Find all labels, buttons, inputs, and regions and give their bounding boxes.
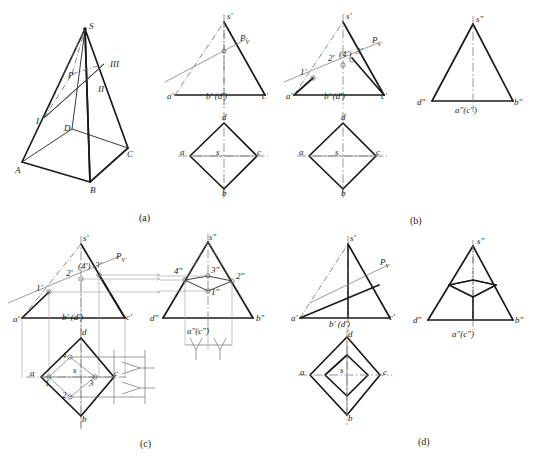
- label-c1-s-prime: s': [83, 234, 88, 243]
- label-b3-b-dprime: b": [514, 98, 522, 107]
- label-c1-1: 1: [45, 379, 50, 388]
- label-b3-d-dprime: d": [417, 98, 425, 107]
- label-b2-Pv: PV: [372, 36, 381, 47]
- label-d1-a: a: [300, 368, 305, 377]
- panel-d1-front-result: [298, 236, 392, 425]
- label-c1-4-prime: (4'): [78, 262, 90, 271]
- label-a-C: C: [127, 150, 133, 159]
- label-b2-d: d: [341, 113, 346, 122]
- label-b2-bd-prime: b' (d'): [324, 92, 345, 101]
- label-d2-d-dprime: d": [413, 316, 421, 325]
- label-c2-4-dprime: 4": [174, 267, 182, 276]
- label-b1-bd-prime: b' (d'): [206, 92, 227, 101]
- label-c2-3-dprime: 3": [211, 266, 219, 275]
- label-b2-2-prime: 2': [328, 54, 334, 63]
- label-a-I: I: [36, 117, 39, 126]
- label-d1-s: s: [340, 366, 344, 375]
- label-d1-c-prime: c': [389, 313, 395, 322]
- label-c1-3: 3: [89, 379, 94, 388]
- label-d1-c: c: [383, 368, 387, 377]
- panel-c2-side-construction: [160, 234, 253, 360]
- label-c2-d-dprime: d": [150, 314, 158, 323]
- panel-d2-side-result: [428, 240, 513, 330]
- label-b1-c: c: [257, 148, 261, 157]
- label-c1-a: a: [30, 369, 35, 378]
- label-a-P: P: [68, 71, 74, 80]
- label-c1-c-prime: c': [126, 313, 132, 322]
- label-b2-c-prime: c': [381, 92, 387, 101]
- label-b2-a: a: [299, 148, 304, 157]
- engineering-drawing-figure: .hv{stroke:#1a1a1a;stroke-width:1.7;fill…: [0, 0, 533, 462]
- label-d1-bd-prime: b' (d'): [329, 320, 350, 329]
- label-a-D: D: [64, 124, 71, 133]
- label-b2-4-prime: (4'): [339, 50, 351, 59]
- caption-b: (b): [410, 215, 422, 226]
- label-c1-d: d: [82, 328, 87, 337]
- label-c2-s-dprime: s": [209, 233, 216, 242]
- panel-b3-side-view: [432, 16, 513, 112]
- label-a-II: II: [98, 85, 104, 94]
- label-c1-c: c: [114, 369, 118, 378]
- label-a-S: S: [89, 22, 94, 31]
- figure-svg: .hv{stroke:#1a1a1a;stroke-width:1.7;fill…: [0, 0, 533, 462]
- label-d1-Pv: PV: [380, 258, 389, 269]
- label-c1-4: 4: [62, 351, 67, 360]
- label-b1-b: b: [222, 189, 227, 198]
- label-c2-b-dprime: b": [256, 314, 264, 323]
- label-b1-a: a: [180, 148, 185, 157]
- caption-c: (c): [140, 438, 151, 449]
- label-a-B: B: [90, 186, 96, 195]
- label-c1-3-prime: 3': [95, 261, 101, 270]
- label-d1-b: b: [348, 414, 353, 423]
- label-d2-ac-dprime: a"(c"): [452, 330, 474, 339]
- label-b1-Pv: PV: [240, 34, 249, 45]
- label-b2-1-prime: 1': [300, 68, 306, 77]
- label-c1-s: s: [73, 366, 77, 375]
- label-d1-d: d: [348, 330, 353, 339]
- label-b2-s: s: [335, 148, 339, 157]
- label-b2-3-prime: 3': [356, 47, 362, 56]
- panel-b1-front-view: [165, 14, 268, 198]
- label-c1-b: b: [82, 415, 87, 424]
- label-c2-1-dprime: 1": [211, 288, 219, 297]
- label-b2-b: b: [341, 189, 346, 198]
- label-d2-s-dprime: s": [477, 237, 484, 246]
- label-c1-1-prime: 1': [36, 284, 42, 293]
- label-b1-c-prime: c': [262, 92, 268, 101]
- label-c2-ac-dprime: a"(c"): [187, 327, 209, 336]
- label-c1-2: 2: [62, 391, 67, 400]
- label-b3-s-dprime: s": [476, 15, 483, 24]
- caption-a: (a): [139, 212, 150, 223]
- label-b2-s-prime: s': [346, 12, 351, 21]
- label-b1-s-prime: s': [227, 12, 232, 21]
- label-d2-b-dprime: b": [515, 316, 523, 325]
- label-c1-Pv: PV: [116, 252, 125, 263]
- label-a-III: III: [110, 60, 119, 69]
- label-b1-s: s: [216, 148, 220, 157]
- label-d1-a-prime: a': [291, 314, 297, 323]
- label-d1-s-prime: s': [350, 234, 355, 243]
- label-b3-ac-dprime: a"(c"): [455, 106, 477, 115]
- label-b2-c: c: [376, 148, 380, 157]
- caption-d: (d): [418, 436, 430, 447]
- label-b2-a-prime: a': [286, 92, 292, 101]
- label-c1-a-prime: a': [13, 315, 19, 324]
- label-c1-bd-prime: b' (d'): [62, 313, 83, 322]
- panel-a-pictorial: [22, 27, 128, 182]
- label-a-A: A: [15, 166, 21, 175]
- label-c1-2-prime: 2': [66, 269, 72, 278]
- label-b1-a-prime: a': [167, 92, 173, 101]
- label-c2-2-dprime: 2": [236, 272, 244, 281]
- label-b1-d: d: [222, 113, 227, 122]
